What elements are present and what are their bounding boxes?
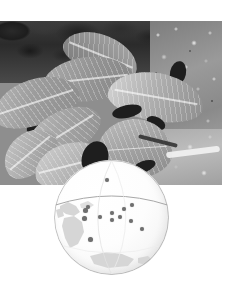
globe-data-point <box>86 205 90 209</box>
globe-overlay <box>54 160 169 275</box>
globe-data-point <box>98 215 102 219</box>
globe-data-point <box>130 203 134 207</box>
globe-data-point <box>105 178 109 182</box>
globe-data-point <box>88 237 93 242</box>
globe-data-point <box>122 207 126 211</box>
globe-data-point <box>129 219 133 223</box>
globe-data-point <box>82 216 87 221</box>
globe-data-point <box>140 227 144 231</box>
globe-data-point <box>118 215 122 219</box>
globe-data-point <box>110 218 114 222</box>
figure-canvas <box>0 0 235 295</box>
globe-data-point <box>110 211 114 215</box>
